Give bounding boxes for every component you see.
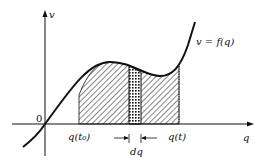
y-axis-arrow-icon bbox=[43, 10, 48, 17]
curve-label: v = f(q) bbox=[196, 36, 234, 47]
upper-bound-label: q(t) bbox=[168, 131, 186, 142]
right-arrow-icon bbox=[124, 136, 129, 140]
y-axis-label: v bbox=[49, 9, 55, 20]
shaded-area bbox=[79, 62, 179, 124]
x-axis-label: q bbox=[243, 132, 249, 143]
integral-diagram: v q 0 v = f(q) q(t₀) q(t) dq bbox=[0, 0, 262, 160]
lower-bound-label: q(t₀) bbox=[68, 131, 90, 142]
origin-label: 0 bbox=[36, 113, 42, 124]
dq-label: dq bbox=[130, 146, 143, 157]
left-arrow-icon bbox=[141, 136, 146, 140]
dq-indicator bbox=[114, 134, 157, 143]
x-axis-arrow-icon bbox=[247, 122, 254, 127]
dq-strip bbox=[129, 66, 141, 124]
